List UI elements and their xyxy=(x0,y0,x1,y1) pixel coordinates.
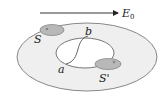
point-a-label: a xyxy=(58,63,65,76)
surface-s xyxy=(40,25,64,36)
surface-s-prime-point xyxy=(113,61,116,64)
surface-s-label: S xyxy=(34,33,42,46)
field-label: E0 xyxy=(121,7,135,21)
point-b-label: b xyxy=(85,25,92,38)
surface-s-prime xyxy=(95,59,121,70)
diagram-canvas: E0 S S' a b xyxy=(0,0,165,94)
surface-s-prime-label: S' xyxy=(99,72,110,85)
surface-s-point xyxy=(46,28,49,31)
